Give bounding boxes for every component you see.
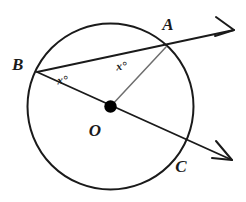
- angle-label-at-b: x°: [55, 72, 68, 87]
- angle-label-at-a: x°: [114, 58, 127, 73]
- radius-o-to-a: [111, 47, 167, 107]
- arrowhead-lower-icon: [212, 141, 232, 160]
- circle-geometry-diagram: A B C O x° x°: [0, 0, 246, 202]
- center-point-dot: [104, 100, 116, 112]
- geometry-figure-root: A B C O x° x°: [0, 0, 246, 202]
- point-label-c: C: [175, 157, 187, 176]
- point-label-a: A: [161, 15, 173, 34]
- point-label-o: O: [89, 121, 101, 140]
- point-label-b: B: [11, 55, 23, 74]
